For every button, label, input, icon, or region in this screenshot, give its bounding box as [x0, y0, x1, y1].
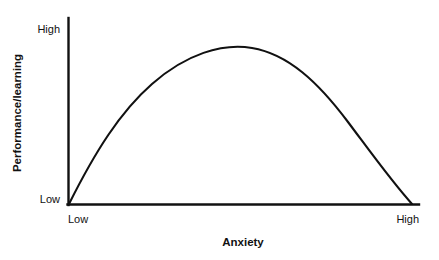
x-axis-title: Anxiety: [222, 236, 264, 248]
y-axis-high-label: High: [37, 23, 60, 35]
x-axis-low-label: Low: [68, 213, 88, 225]
y-axis-title: Performance/learning: [11, 54, 23, 172]
y-axis-low-label: Low: [40, 193, 60, 205]
inverted-u-curve-chart: High Low Low High Anxiety Performance/le…: [0, 0, 439, 260]
performance-curve: [69, 47, 412, 204]
chart-figure: High Low Low High Anxiety Performance/le…: [0, 0, 439, 260]
x-axis-high-label: High: [396, 213, 419, 225]
